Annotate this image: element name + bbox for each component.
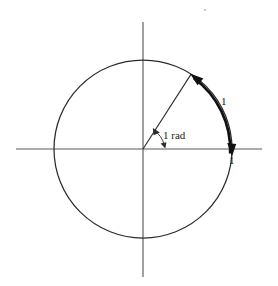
angle-arc-arrowhead-lower: [161, 142, 167, 148]
arc-length-label: 1: [221, 95, 227, 107]
stray-speck: [204, 9, 206, 11]
arc-one-radian: [194, 78, 231, 154]
unit-circle-diagram-svg: 1 rad 1 1: [0, 0, 278, 286]
x-intercept-label: 1: [229, 154, 235, 166]
angle-label: 1 rad: [163, 129, 186, 141]
unit-circle-figure: 1 rad 1 1: [0, 0, 278, 286]
